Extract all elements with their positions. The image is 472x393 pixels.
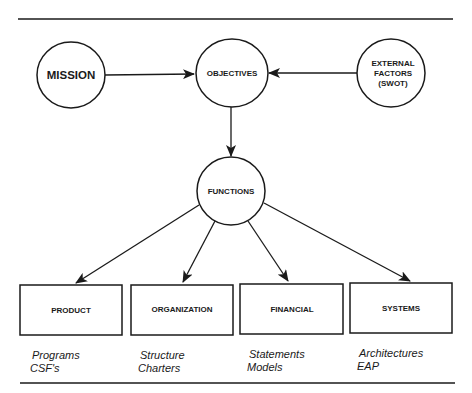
- box-product: PRODUCT: [20, 285, 122, 335]
- edge-functions-organization: [183, 221, 215, 282]
- node-mission-label: MISSION: [47, 69, 96, 81]
- systems-detail-2: EAP: [357, 360, 423, 373]
- organization-detail-2: Charters: [138, 362, 185, 375]
- box-financial-label: FINANCIAL: [270, 305, 313, 314]
- financial-detail-1: Statements: [247, 348, 305, 361]
- node-external-line3: (SWOT): [378, 79, 408, 88]
- box-organization-label: ORGANIZATION: [151, 305, 212, 314]
- product-detail-1: Programs: [30, 349, 80, 362]
- organization-details: Structure Charters: [138, 349, 185, 375]
- diagram-canvas: MISSION OBJECTIVES EXTERNAL FACTORS (SWO…: [0, 0, 472, 393]
- node-functions-label: FUNCTIONS: [208, 187, 255, 196]
- node-external-line1: EXTERNAL: [371, 59, 414, 68]
- node-functions: FUNCTIONS: [197, 157, 265, 225]
- box-organization: ORGANIZATION: [131, 285, 233, 335]
- node-objectives: OBJECTIVES: [196, 39, 268, 107]
- edge-mission-objectives: [105, 74, 194, 75]
- box-systems-label: SYSTEMS: [382, 304, 421, 313]
- financial-details: Statements Models: [247, 348, 305, 374]
- node-external-factors: EXTERNAL FACTORS (SWOT): [357, 39, 425, 107]
- edge-functions-systems: [264, 203, 410, 281]
- edge-functions-financial: [248, 221, 288, 281]
- edge-functions-product: [76, 205, 199, 283]
- box-product-label: PRODUCT: [51, 306, 91, 315]
- node-external-line2: FACTORS: [374, 69, 413, 78]
- systems-details: Architectures EAP: [357, 347, 423, 373]
- node-objectives-label: OBJECTIVES: [207, 69, 258, 78]
- product-details: Programs CSF's: [30, 349, 80, 375]
- node-mission: MISSION: [37, 42, 105, 108]
- box-systems: SYSTEMS: [350, 283, 452, 333]
- financial-detail-2: Models: [247, 361, 305, 374]
- box-financial: FINANCIAL: [240, 284, 343, 334]
- organization-detail-1: Structure: [138, 349, 185, 362]
- systems-detail-1: Architectures: [357, 347, 423, 360]
- product-detail-2: CSF's: [30, 362, 80, 375]
